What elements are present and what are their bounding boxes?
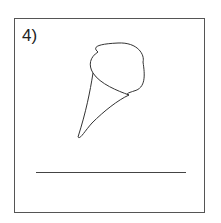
answer-line <box>36 172 186 173</box>
ice-cream-cone-sketch <box>0 0 221 223</box>
